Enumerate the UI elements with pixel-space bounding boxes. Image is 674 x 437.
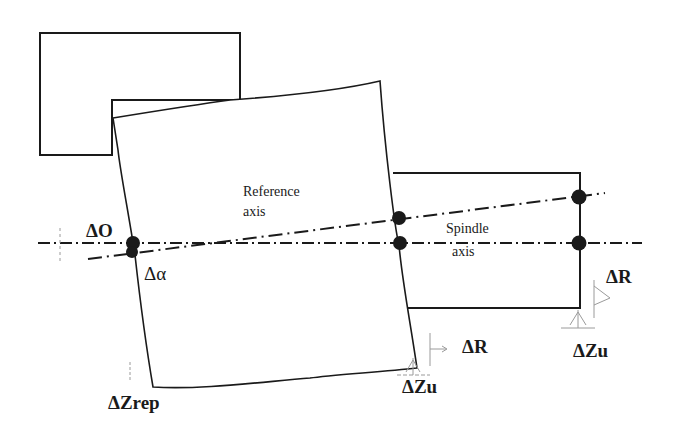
reference-axis-label-line1: Reference [243,184,300,199]
spindle-block [393,173,580,308]
tilted-workpiece [113,81,417,388]
delta-zu-mid-label: ΔZu [402,376,438,397]
diagram-canvas: Reference axis Spindle axis ΔO Δα ΔZrep … [0,0,674,437]
delta-o-label: ΔO [86,220,113,241]
delta-r-mid-label: ΔR [462,336,488,357]
spindle-axis-label-line2: axis [452,244,475,259]
delta-zu-right-label: ΔZu [573,340,609,361]
delta-zrep-label: ΔZrep [108,392,160,413]
dot-right-reference [572,190,587,205]
dot-mid-reference [392,211,406,225]
dot-origin-lower [126,246,138,258]
delta-alpha-label: Δα [144,263,166,284]
dot-right-spindle [572,236,587,251]
spindle-axis-label-line1: Spindle [446,221,489,236]
delta-r-right-label: ΔR [606,266,632,287]
right-deviation-arrows-icon [561,280,610,328]
dot-mid-spindle [393,236,407,250]
reference-axis-label-line2: axis [243,204,266,219]
